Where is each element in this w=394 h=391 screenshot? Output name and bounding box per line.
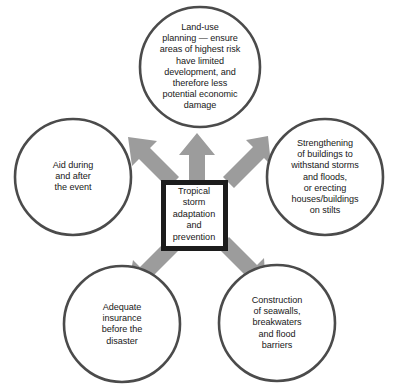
center-box-fill[interactable] <box>166 185 223 246</box>
diagram-container: Land-use planning — ensure areas of high… <box>0 0 394 391</box>
node-circle-seawalls-construction[interactable] <box>219 265 335 381</box>
node-circle-land-use-planning[interactable] <box>140 7 260 127</box>
node-circle-adequate-insurance[interactable] <box>64 266 180 382</box>
node-circle-aid-during-after[interactable] <box>15 119 131 235</box>
diagram-canvas <box>0 0 394 391</box>
node-circle-strengthening-buildings[interactable] <box>267 119 383 235</box>
arrow-to-strengthening-buildings <box>223 136 271 188</box>
